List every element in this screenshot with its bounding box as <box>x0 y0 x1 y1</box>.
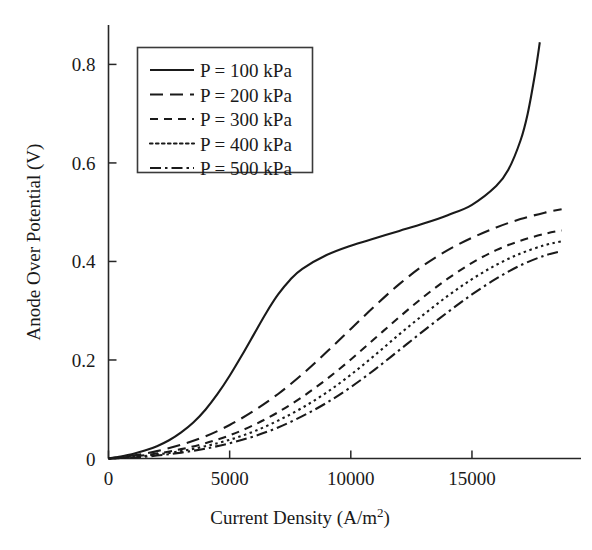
x-tick-label: 15000 <box>448 468 496 489</box>
x-tick-label: 10000 <box>327 468 375 489</box>
x-axis-title-tail: ) <box>383 507 389 529</box>
svg-text:Current Density (A/m2): Current Density (A/m2) <box>210 505 390 529</box>
curve-p-500-kpa <box>109 251 562 458</box>
x-tick-label: 0 <box>104 468 114 489</box>
chart-figure: 05000100001500000.20.40.60.8 Anode Over … <box>0 0 592 550</box>
x-tick-label: 5000 <box>211 468 249 489</box>
curve-p-300-kpa <box>109 230 562 458</box>
y-tick-label: 0.8 <box>72 54 96 75</box>
y-tick-label: 0.4 <box>72 251 96 272</box>
legend-label-5: P = 500 kPa <box>200 158 292 179</box>
x-axis-title-main: Current Density (A/m <box>210 507 377 529</box>
y-axis-title: Anode Over Potential (V) <box>23 144 45 341</box>
curve-p-200-kpa <box>109 209 562 458</box>
y-tick-label: 0 <box>86 449 96 470</box>
legend-label-4: P = 400 kPa <box>200 134 292 155</box>
y-tick-label: 0.2 <box>72 350 96 371</box>
legend-label-2: P = 200 kPa <box>200 85 292 106</box>
y-tick-label: 0.6 <box>72 153 96 174</box>
curve-p-400-kpa <box>109 241 562 458</box>
x-axis-title: Current Density (A/m2) <box>210 505 390 529</box>
legend: P = 100 kPaP = 200 kPaP = 300 kPaP = 400… <box>138 48 313 180</box>
chart-canvas: 05000100001500000.20.40.60.8 Anode Over … <box>0 0 592 550</box>
legend-label-3: P = 300 kPa <box>200 109 292 130</box>
legend-label-1: P = 100 kPa <box>200 60 292 81</box>
